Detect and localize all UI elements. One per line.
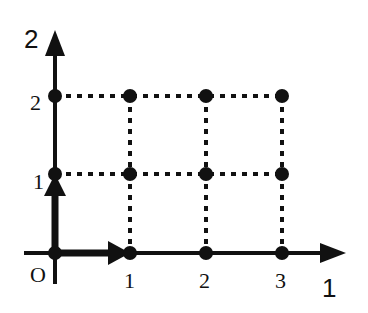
point-0-2 <box>48 89 62 103</box>
point-2-0 <box>199 246 213 260</box>
y-tick-2: 2 <box>30 90 41 115</box>
point-1-0 <box>123 246 137 260</box>
point-0-0 <box>48 246 62 260</box>
point-1-2 <box>123 89 137 103</box>
lattice-diagram: 2 1 O 1 2 3 1 2 <box>0 0 368 313</box>
point-3-1 <box>275 167 289 181</box>
x-tick-3: 3 <box>275 268 286 293</box>
axes <box>24 30 346 284</box>
point-1-1 <box>123 167 137 181</box>
horizontal-axis-label: 1 <box>322 273 336 303</box>
y-tick-1: 1 <box>33 169 44 194</box>
grid-lines <box>55 96 282 253</box>
origin-label: O <box>30 262 46 287</box>
x-tick-2: 2 <box>199 268 210 293</box>
point-2-1 <box>199 167 213 181</box>
vertical-axis-arrowhead-icon <box>45 30 65 56</box>
horizontal-axis-arrowhead-icon <box>320 243 346 263</box>
point-2-2 <box>199 89 213 103</box>
point-3-2 <box>275 89 289 103</box>
x-tick-1: 1 <box>124 268 135 293</box>
point-3-0 <box>275 246 289 260</box>
vertical-axis-label: 2 <box>24 24 38 54</box>
point-0-1 <box>48 167 62 181</box>
